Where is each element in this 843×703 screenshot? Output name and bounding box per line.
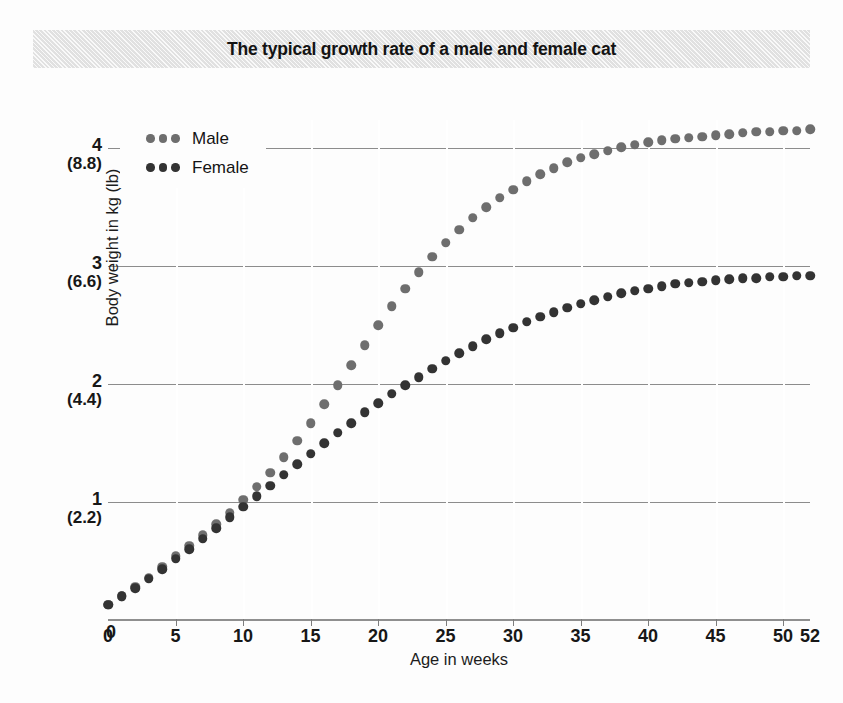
legend-item-female[interactable]: Female	[146, 153, 249, 182]
data-point	[252, 491, 262, 501]
x-tick-label-40: 40	[638, 626, 658, 647]
x-tick-25	[446, 619, 447, 626]
data-point	[454, 349, 464, 359]
data-point	[765, 272, 775, 282]
x-tick-label-50: 50	[773, 626, 793, 647]
x-tick-5	[176, 619, 177, 626]
legend-item-male[interactable]: Male	[146, 124, 249, 153]
x-tick-label-10: 10	[233, 626, 253, 647]
x-tick-label-52: 52	[800, 626, 820, 647]
series-female	[108, 120, 810, 620]
data-point	[589, 296, 599, 306]
data-point	[360, 408, 370, 418]
data-point	[427, 364, 437, 374]
chart-figure: The typical growth rate of a male and fe…	[0, 0, 843, 703]
data-point	[198, 534, 208, 544]
data-point	[805, 271, 815, 281]
data-point	[778, 272, 788, 282]
legend-label-male: Male	[188, 129, 229, 149]
data-point	[265, 481, 275, 491]
data-point	[468, 342, 478, 352]
data-point	[225, 513, 235, 523]
x-tick-15	[311, 619, 312, 626]
data-point	[535, 312, 545, 322]
x-tick-label-35: 35	[570, 626, 590, 647]
y-tick-kg: 0	[106, 622, 116, 642]
data-point	[657, 282, 667, 292]
y-tick-kg: 2	[92, 371, 102, 391]
data-point	[103, 600, 113, 610]
data-point	[171, 554, 181, 564]
x-tick-35	[581, 619, 582, 626]
data-point	[522, 317, 532, 327]
x-tick-label-25: 25	[435, 626, 455, 647]
y-tick-label-1: 1(2.2)	[67, 490, 102, 527]
x-tick-40	[648, 619, 649, 626]
data-point	[144, 574, 154, 584]
x-tick-label-20: 20	[368, 626, 388, 647]
data-point	[576, 299, 586, 309]
x-tick-50	[783, 619, 784, 626]
plot-area	[108, 120, 810, 620]
data-point	[711, 276, 721, 286]
data-point	[333, 428, 343, 438]
chart-title-band: The typical growth rate of a male and fe…	[33, 30, 810, 68]
data-point	[346, 418, 356, 428]
x-tick-label-30: 30	[503, 626, 523, 647]
data-point	[508, 323, 518, 333]
y-tick-label-0: 0	[106, 623, 116, 642]
x-tick-45	[716, 619, 717, 626]
data-point	[684, 278, 694, 288]
y-tick-lb: (4.4)	[67, 391, 102, 409]
data-series-layer	[108, 120, 810, 620]
y-tick-label-2: 2(4.4)	[67, 372, 102, 409]
data-point	[603, 292, 613, 302]
data-point	[562, 303, 572, 313]
data-point	[238, 502, 248, 512]
chart-legend: Male Female	[146, 124, 249, 182]
y-tick-lb: (8.8)	[67, 155, 102, 173]
data-point	[495, 329, 505, 339]
x-tick-30	[513, 619, 514, 626]
male-marker-icon	[146, 134, 188, 143]
data-point	[373, 398, 383, 408]
data-point	[751, 273, 761, 283]
y-tick-kg: 1	[92, 489, 102, 509]
y-tick-label-3: 3(6.6)	[67, 254, 102, 291]
legend-label-female: Female	[188, 158, 249, 178]
data-point	[306, 449, 316, 459]
y-tick-kg: 4	[92, 135, 102, 155]
data-point	[697, 277, 707, 287]
data-point	[319, 438, 329, 448]
y-tick-lb: (6.6)	[67, 273, 102, 291]
data-point	[292, 460, 302, 470]
x-tick-20	[378, 619, 379, 626]
data-point	[481, 335, 491, 345]
data-point	[400, 381, 410, 391]
data-point	[616, 289, 626, 299]
data-point	[130, 583, 140, 593]
data-point	[387, 389, 397, 399]
x-tick-label-5: 5	[170, 626, 180, 647]
data-point	[441, 356, 451, 366]
x-tick-label-15: 15	[300, 626, 320, 647]
data-point	[630, 286, 640, 296]
data-point	[117, 592, 127, 602]
y-tick-lb: (2.2)	[67, 509, 102, 527]
y-axis-ticks: 01(2.2)2(4.4)3(6.6)4(8.8)	[30, 0, 102, 703]
chart-title: The typical growth rate of a male and fe…	[227, 39, 616, 60]
x-axis-title: Age in weeks	[108, 650, 810, 669]
data-point	[643, 284, 653, 294]
x-tick-10	[243, 619, 244, 626]
y-tick-label-4: 4(8.8)	[67, 136, 102, 173]
data-point	[670, 279, 680, 289]
data-point	[549, 307, 559, 317]
data-point	[279, 470, 289, 480]
y-tick-kg: 3	[92, 253, 102, 273]
data-point	[211, 523, 221, 533]
data-point	[184, 544, 194, 554]
data-point	[157, 565, 167, 575]
data-point	[414, 372, 424, 382]
female-marker-icon	[146, 163, 188, 172]
data-point	[738, 273, 748, 283]
